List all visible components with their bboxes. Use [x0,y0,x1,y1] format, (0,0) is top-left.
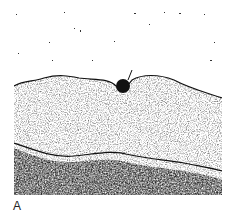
panel-label: A [13,199,21,213]
micrograph-image [14,8,222,195]
electron-micrograph [14,8,222,195]
